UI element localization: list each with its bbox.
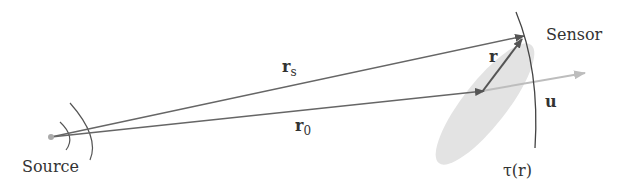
tau-label: τ(r) [503,161,532,180]
u-label: u [545,92,557,111]
r-label: r [489,47,498,66]
rs-label: rs [282,57,297,79]
r0-label: r0 [295,116,311,138]
source-point [48,134,54,140]
sensor-label: Sensor [546,25,603,44]
r0-vector [51,91,484,137]
source-label: Source [22,157,79,176]
diagram-canvas: Source Sensor rs r0 r u τ(r) [0,0,639,195]
